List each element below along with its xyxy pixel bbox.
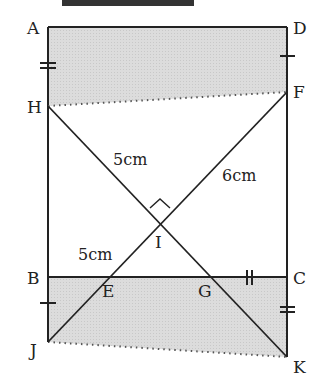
shaded-region-top — [48, 27, 287, 106]
label-H: H — [27, 97, 42, 117]
label-D: D — [293, 18, 307, 38]
label-B: B — [27, 268, 40, 288]
measure-EI: 5cm — [78, 245, 112, 264]
label-G: G — [198, 281, 212, 301]
geometry-diagram: A D H F B C J K E G I 5cm 6cm 5cm — [0, 0, 320, 389]
label-E: E — [102, 281, 114, 301]
right-angle-mark — [150, 199, 170, 208]
label-K: K — [293, 357, 306, 377]
measure-IF: 6cm — [222, 166, 256, 185]
cut-heading — [62, 0, 194, 6]
label-I: I — [155, 232, 162, 252]
label-J: J — [28, 340, 37, 360]
shaded-region-bottom — [48, 277, 287, 357]
label-F: F — [293, 82, 305, 102]
measure-HI: 5cm — [113, 150, 147, 169]
label-A: A — [26, 18, 40, 38]
label-C: C — [293, 268, 306, 288]
